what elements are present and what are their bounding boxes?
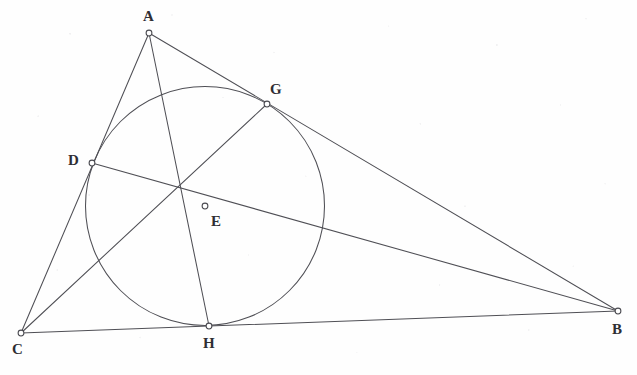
side-BC-line [21, 311, 618, 333]
vertex-marker-B [615, 308, 621, 314]
vertex-marker-D [89, 160, 95, 166]
geometry-figure: A B C D E G H [0, 0, 637, 375]
vertex-marker-C [18, 330, 24, 336]
geometry-canvas [0, 0, 637, 375]
point-label-H: H [203, 336, 215, 351]
point-label-A: A [143, 9, 154, 24]
side-AB-line [149, 33, 618, 311]
point-label-C: C [12, 342, 23, 357]
angle-bisectors-group [21, 33, 618, 333]
point-label-E: E [211, 214, 221, 229]
point-label-B: B [612, 322, 622, 337]
vertex-marker-H [206, 323, 212, 329]
point-label-D: D [68, 153, 79, 168]
vertex-marker-A [146, 30, 152, 36]
vertex-markers-group [18, 30, 621, 336]
bisector-B-to-D-line [92, 163, 618, 311]
bisector-A-to-H-line [149, 33, 209, 326]
bisector-C-to-G-line [21, 104, 267, 333]
side-CA-line [21, 33, 149, 333]
point-label-G: G [270, 82, 282, 97]
triangle-sides-group [21, 33, 618, 333]
vertex-marker-G [264, 101, 270, 107]
vertex-marker-E [202, 203, 208, 209]
